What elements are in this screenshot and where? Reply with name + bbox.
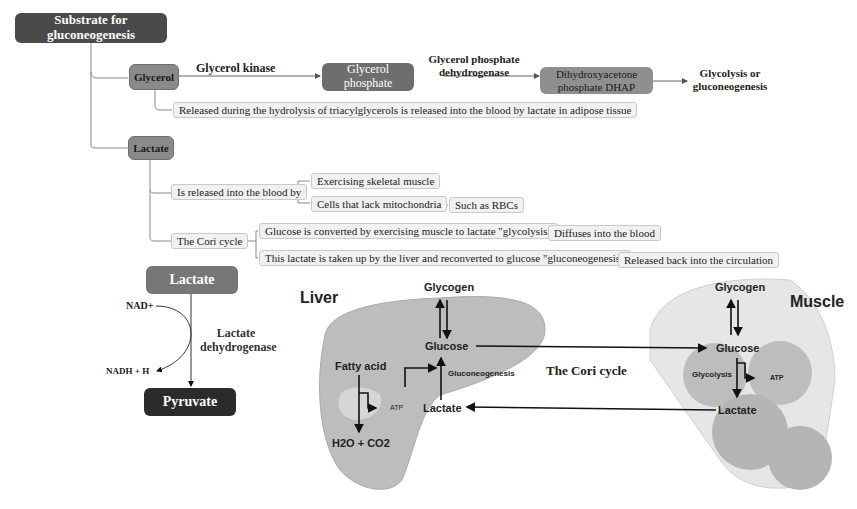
liver-title: Liver [300,288,338,307]
liver-lactate: Lactate [423,402,462,415]
liver-glycogen: Glycogen [424,281,474,294]
liver-atp: ATP [390,404,403,412]
liver-products: H2O + CO2 [332,437,390,450]
muscle-glycolysis: Glycolysis [692,370,732,380]
liver-gluconeogenesis: Gluconeogenesis [448,369,515,379]
liver-fatty-acid: Fatty acid [335,360,386,373]
liver-glucose: Glucose [425,340,468,353]
muscle-atp: ATP [770,374,783,382]
muscle-glycogen: Glycogen [715,281,765,294]
cori-cycle-title: The Cori cycle [546,363,627,379]
muscle-glucose: Glucose [716,342,759,355]
muscle-title: Muscle [790,292,844,311]
muscle-lactate: Lactate [718,404,757,417]
cori-illustration [0,0,857,509]
